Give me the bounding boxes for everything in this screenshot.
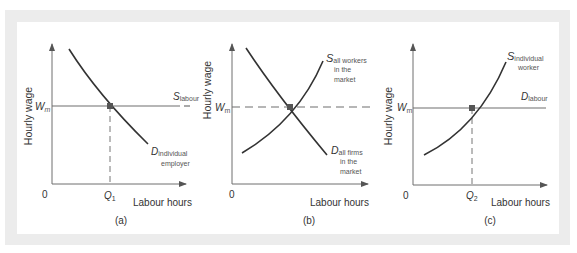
demand-curve bbox=[246, 48, 327, 155]
demand-label-line2: employer bbox=[161, 160, 190, 168]
supply-label: Sall workers bbox=[326, 52, 367, 64]
y-axis-label: Hourly wage bbox=[382, 87, 394, 146]
panel-a: Hourly wage Wm 0 Q1 Labour hours (a) Sla… bbox=[22, 44, 200, 226]
supply-label-line3: market bbox=[334, 76, 355, 83]
wage-label: Wm bbox=[397, 102, 412, 114]
panel-caption: (b) bbox=[303, 215, 315, 226]
x-axis-label: Labour hours bbox=[310, 197, 369, 208]
labour-market-diagram: Hourly wage Wm 0 Q1 Labour hours (a) Sla… bbox=[0, 0, 577, 253]
wage-label: Wm bbox=[215, 102, 230, 114]
demand-label-line3: market bbox=[340, 168, 361, 175]
origin-label: 0 bbox=[229, 189, 235, 200]
origin-label: 0 bbox=[403, 190, 409, 201]
x-axis-label: Labour hours bbox=[133, 197, 192, 208]
y-axis-label: Hourly wage bbox=[201, 61, 213, 120]
panel-caption: (c) bbox=[484, 215, 496, 226]
equilibrium-marker bbox=[287, 104, 293, 110]
supply-label: Sindividual bbox=[507, 50, 544, 62]
x-axis-label: Labour hours bbox=[491, 197, 550, 208]
panel-caption: (a) bbox=[115, 215, 127, 226]
supply-label-line2: worker bbox=[517, 64, 540, 71]
supply-label-line2: in the bbox=[334, 66, 351, 73]
demand-label-line2: in the bbox=[340, 158, 357, 165]
panel-b: Hourly wage Wm 0 Labour hours (b) Sall w… bbox=[201, 44, 372, 226]
equilibrium-marker bbox=[107, 103, 113, 109]
y-axis-label: Hourly wage bbox=[22, 87, 34, 146]
demand-label: Dall firms bbox=[331, 144, 363, 156]
demand-curve bbox=[69, 49, 148, 144]
origin-label: 0 bbox=[42, 189, 48, 200]
demand-label: Dindividual bbox=[151, 146, 188, 157]
wage-label: Wm bbox=[35, 101, 50, 113]
equilibrium-marker bbox=[469, 105, 475, 111]
supply-label: Slabour bbox=[173, 91, 200, 102]
demand-label: Dlabour bbox=[521, 91, 548, 102]
quantity-label: Q2 bbox=[466, 190, 478, 202]
panel-c: Hourly wage Wm 0 Q2 Labour hours (c) Sin… bbox=[382, 44, 550, 226]
quantity-label: Q1 bbox=[104, 190, 116, 202]
